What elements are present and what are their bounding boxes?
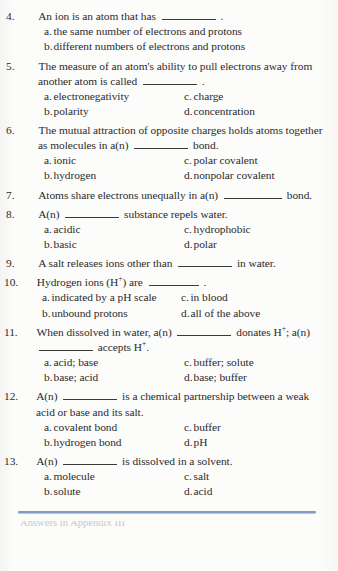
option-letter: a. (44, 24, 54, 39)
question-item: 8. A(n) substance repels water. a.acidic… (0, 207, 328, 253)
question-number: 5. (22, 59, 36, 74)
option-label: buffer (194, 421, 221, 433)
scanned-page: 4. An ion is an atom that has . a.the sa… (0, 0, 338, 571)
option-d[interactable]: d.polar (184, 237, 328, 252)
option-d[interactable]: d.nonpolar covalent (184, 168, 328, 183)
quiz-question-list: 4. An ion is an atom that has . a.the sa… (0, 0, 338, 530)
question-text-middle: donates H+; a(n) (236, 326, 310, 338)
option-group: a.ionic c.polar covalent b.hydrogen d.no… (0, 153, 328, 183)
option-c[interactable]: c.buffer (184, 420, 328, 435)
option-c[interactable]: c.polar covalent (184, 153, 328, 168)
option-letter: a. (44, 420, 54, 435)
option-c[interactable]: c.salt (184, 469, 328, 484)
section-divider-rule (18, 511, 316, 513)
option-a[interactable]: a.electronegativity (44, 89, 184, 104)
question-stem: 13. A(n) is dissolved in a solvent. (0, 454, 328, 469)
answer-blank[interactable] (63, 389, 117, 400)
question-text-after: substance repels water. (124, 208, 228, 220)
option-letter: b. (44, 237, 54, 252)
answer-blank[interactable] (177, 325, 231, 336)
option-label: unbound protons (52, 307, 128, 319)
option-letter: c. (184, 89, 194, 104)
question-text-after: is dissolved in a solvent. (122, 455, 232, 467)
option-letter: a. (42, 290, 52, 305)
option-d[interactable]: d.pH (184, 435, 328, 450)
question-item: 6. The mutual attraction of opposite cha… (0, 123, 328, 184)
question-text-after: accepts H+. (98, 341, 149, 353)
question-item: 12. A(n) is a chemical partnership betwe… (0, 389, 328, 450)
question-text-after: in water. (237, 257, 276, 269)
answer-blank[interactable] (224, 188, 282, 199)
option-a[interactable]: a.acid; base (44, 355, 184, 370)
question-stem: 11. When dissolved in water, a(n) donate… (0, 325, 328, 355)
option-label: hydrophobic (194, 223, 251, 235)
answer-blank[interactable] (143, 74, 197, 85)
option-c[interactable]: c.charge (184, 89, 328, 104)
option-b[interactable]: b.hydrogen (44, 168, 184, 183)
option-label: polar covalent (194, 154, 258, 166)
option-a[interactable]: a.molecule (44, 469, 184, 484)
option-label: pH (194, 436, 208, 448)
option-b[interactable]: b.base; acid (44, 370, 184, 385)
option-d[interactable]: d.acid (184, 484, 328, 499)
option-label: indicated by a pH scale (52, 291, 157, 303)
option-a[interactable]: a.acidic (44, 222, 184, 237)
option-c[interactable]: c.in blood (181, 290, 328, 305)
option-a[interactable]: a.covalent bond (44, 420, 184, 435)
superscript-plus: + (142, 339, 146, 348)
question-item: 4. An ion is an atom that has . a.the sa… (0, 9, 328, 55)
question-number: 12. (20, 389, 34, 404)
question-stem: 6. The mutual attraction of opposite cha… (0, 123, 328, 153)
question-text-before: A(n) (38, 208, 59, 220)
question-number: 4. (22, 9, 36, 24)
question-item: 9. A salt releases ions other than in wa… (0, 256, 328, 271)
option-label: acid (194, 485, 213, 497)
answer-blank[interactable] (149, 275, 199, 286)
option-letter: a. (44, 469, 54, 484)
option-label: solute (54, 485, 81, 497)
option-b[interactable]: b.unbound protons (42, 306, 181, 321)
option-a[interactable]: a.ionic (44, 153, 184, 168)
option-letter: c. (184, 420, 194, 435)
option-group: a.the same number of electrons and proto… (0, 24, 328, 54)
question-text-before: An ion is an atom that has (38, 10, 156, 22)
option-label: polar (194, 238, 217, 250)
option-d[interactable]: d.base; buffer (184, 370, 328, 385)
option-letter: d. (181, 306, 191, 321)
option-label: all of the above (191, 307, 261, 319)
answer-blank[interactable] (134, 138, 188, 149)
option-b[interactable]: b.basic (44, 237, 184, 252)
option-letter: d. (184, 435, 194, 450)
question-number: 13. (20, 454, 34, 469)
answer-blank[interactable] (178, 256, 232, 267)
question-number: 9. (22, 256, 36, 271)
question-text-before: When dissolved in water, a(n) (37, 326, 172, 338)
question-number: 8. (22, 207, 36, 222)
question-number: 7. (22, 188, 36, 203)
option-d[interactable]: d.concentration (184, 104, 328, 119)
option-b[interactable]: b.solute (44, 484, 184, 499)
option-c[interactable]: c.buffer; solute (184, 355, 328, 370)
option-b[interactable]: b.different numbers of electrons and pro… (44, 39, 328, 54)
answer-blank[interactable] (65, 207, 119, 218)
question-number: 11. (20, 325, 34, 340)
option-label: concentration (194, 105, 255, 117)
option-label: hydrogen bond (54, 436, 122, 448)
answer-blank[interactable] (162, 9, 216, 20)
option-a[interactable]: a.the same number of electrons and proto… (44, 24, 328, 39)
question-stem: 8. A(n) substance repels water. (0, 207, 328, 222)
question-text-after: . (203, 276, 206, 288)
option-c[interactable]: c.hydrophobic (184, 222, 328, 237)
question-item: 7. Atoms share electrons unequally in a(… (0, 188, 328, 203)
answer-blank[interactable] (63, 454, 117, 465)
question-text-before: A salt releases ions other than (38, 257, 172, 269)
option-d[interactable]: d.all of the above (181, 306, 328, 321)
superscript-plus: + (118, 275, 122, 284)
option-b[interactable]: b.hydrogen bond (44, 435, 184, 450)
option-b[interactable]: b.polarity (44, 104, 184, 119)
option-letter: a. (44, 355, 54, 370)
option-label: polarity (54, 105, 89, 117)
answer-blank[interactable] (39, 340, 93, 351)
option-a[interactable]: a.indicated by a pH scale (42, 290, 181, 305)
option-group: a.electronegativity c.charge b.polarity … (0, 89, 328, 119)
